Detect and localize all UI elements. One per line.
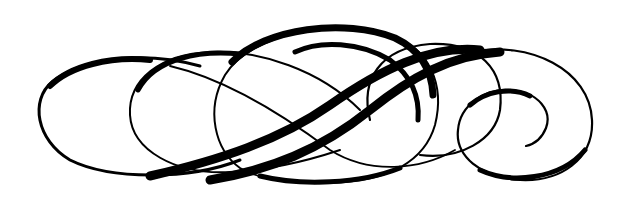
center-oval-thick-bottom: [260, 168, 400, 182]
left-loop-thick-top: [50, 59, 150, 86]
right-spiral-thick-bottom: [480, 150, 585, 178]
flourish-canvas: Black calligraphic swirl flourish orname…: [0, 0, 627, 197]
calligraphic-flourish-ornament: [0, 0, 627, 197]
